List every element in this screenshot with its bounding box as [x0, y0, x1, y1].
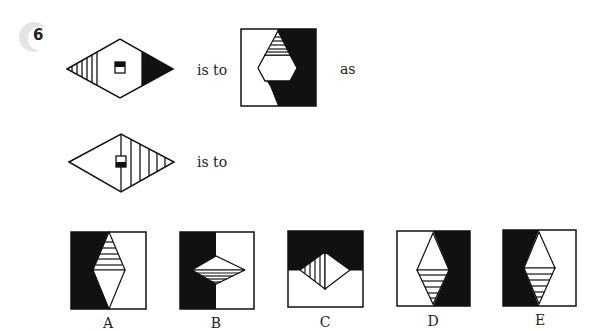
option-c-label[interactable]: C [320, 315, 331, 329]
source-diamond-1 [67, 39, 180, 98]
option-a-figure[interactable] [71, 232, 146, 309]
source-diamond-2 [69, 134, 174, 192]
marker-square-2 [116, 156, 126, 167]
option-b-figure[interactable] [180, 232, 254, 309]
option-e-label[interactable]: E [535, 313, 545, 327]
option-b-label[interactable]: B [211, 316, 221, 330]
option-d-label[interactable]: D [427, 314, 438, 328]
marker-square-1 [115, 62, 125, 73]
option-c-figure[interactable] [288, 231, 363, 307]
target-square-1 [241, 29, 316, 106]
option-e-figure[interactable] [503, 230, 576, 306]
option-d-figure[interactable] [397, 231, 470, 306]
option-a-label[interactable]: A [103, 316, 113, 330]
puzzle-figures [0, 0, 597, 331]
